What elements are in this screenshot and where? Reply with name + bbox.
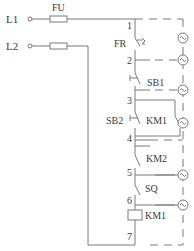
node-5: 5 [127, 167, 132, 178]
label-l1: L1 [6, 13, 18, 25]
label-sq: SQ [145, 183, 159, 194]
node-7: 7 [127, 231, 132, 242]
terminal-l2-icon [28, 44, 32, 48]
indicator-icons [178, 33, 188, 210]
terminal-l1-icon [28, 17, 32, 21]
label-fu: FU [52, 2, 66, 13]
label-sb1: SB1 [147, 77, 164, 88]
label-fr: FR [114, 38, 127, 49]
label-l2: L2 [6, 40, 18, 52]
node-4: 4 [127, 133, 132, 144]
label-km2: KM2 [146, 153, 167, 164]
fr-contact-icon [135, 38, 140, 46]
km1-coil-icon [128, 210, 142, 220]
node-3: 3 [127, 95, 132, 106]
node-6: 6 [127, 195, 132, 206]
km2-contact-icon [135, 155, 140, 166]
label-sb2: SB2 [106, 115, 123, 126]
fuse-l2-icon [50, 43, 67, 49]
circuit-diagram: L1 L2 FU 1 2 3 4 5 6 7 FR SB1 SB2 KM1 KM… [0, 0, 194, 251]
sq-contact-icon [135, 185, 140, 195]
node-1: 1 [127, 20, 132, 31]
node-2: 2 [127, 55, 132, 66]
label-km1-coil: KM1 [145, 210, 166, 221]
fuse-l1-icon [50, 16, 67, 22]
label-km1-contact: KM1 [146, 115, 167, 126]
